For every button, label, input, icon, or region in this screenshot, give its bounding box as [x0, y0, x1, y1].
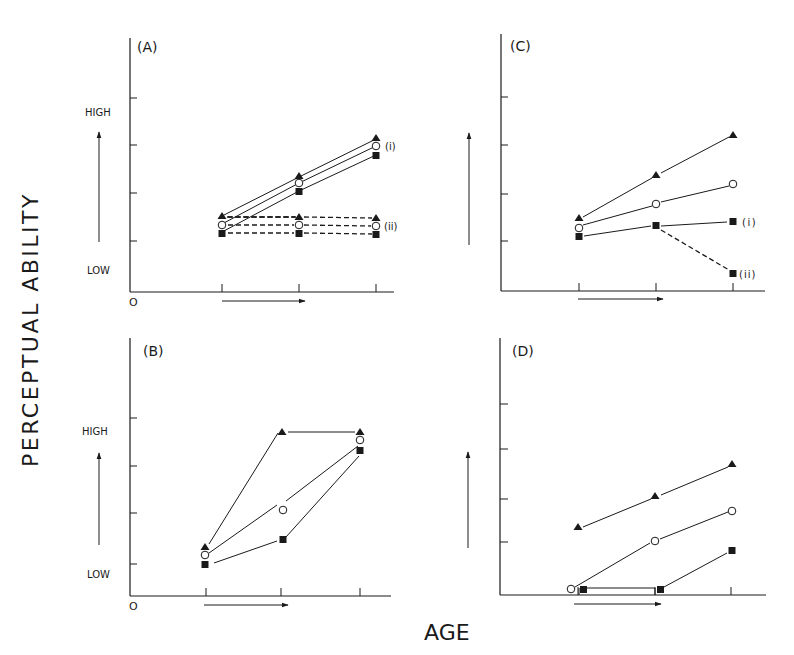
panel-c-annotation-i: (i)	[742, 217, 757, 228]
panel-a-annotation-ii: (ii)	[384, 221, 397, 232]
panel-d-markers	[567, 460, 736, 593]
circle-marker-icon	[729, 180, 737, 188]
panel-a-title: (A)	[137, 39, 158, 55]
circle-marker-icon	[295, 221, 303, 229]
triangle-marker-icon	[278, 428, 287, 435]
panel-b-origin-label: O	[129, 600, 138, 613]
triangle-marker-icon	[372, 134, 381, 141]
panel-a-y-ticks	[130, 98, 137, 241]
panel-c-title: (C)	[510, 38, 531, 54]
panel-a-x-ticks	[222, 284, 376, 292]
triangle-marker-icon	[729, 131, 738, 138]
triangle-marker-icon	[372, 214, 381, 221]
circle-marker-icon	[567, 585, 575, 593]
panel-a-low-label: LOW	[87, 265, 110, 276]
panel-b-y-ticks	[130, 418, 137, 564]
square-marker-icon	[202, 561, 209, 568]
panel-a: (A) O HIGH LOW	[85, 38, 397, 309]
triangle-marker-icon	[201, 543, 210, 550]
circle-marker-icon	[356, 436, 364, 444]
triangle-marker-icon	[574, 523, 583, 530]
y-axis-label: PERCEPTUAL ABILITY	[18, 192, 43, 467]
circle-marker-icon	[279, 506, 287, 514]
panel-c-y-ticks	[501, 97, 508, 241]
circle-marker-icon	[652, 200, 660, 208]
panel-d: (D)	[468, 338, 766, 604]
circle-marker-icon	[372, 142, 380, 150]
panel-d-y-ticks	[500, 404, 508, 542]
square-marker-icon	[730, 218, 737, 225]
panel-c: (C)	[469, 34, 765, 299]
panel-d-lines	[575, 467, 728, 595]
panel-c-dashed-line-ii	[661, 230, 729, 270]
panel-b-high-label: HIGH	[82, 426, 108, 437]
square-marker-icon	[730, 270, 737, 277]
square-marker-icon	[219, 230, 226, 237]
triangle-marker-icon	[575, 214, 584, 221]
square-marker-icon	[729, 547, 736, 554]
square-marker-icon	[580, 586, 587, 593]
panel-b-low-label: LOW	[87, 569, 110, 580]
square-marker-icon	[576, 233, 583, 240]
panel-b: (B) O HIGH LOW	[82, 338, 391, 613]
panel-b-title: (B)	[143, 343, 164, 359]
panel-c-lines	[583, 137, 729, 236]
panel-b-x-ticks	[206, 588, 360, 596]
triangle-marker-icon	[728, 460, 737, 467]
square-marker-icon	[653, 222, 660, 229]
circle-marker-icon	[295, 179, 303, 187]
panel-c-x-ticks	[579, 283, 733, 291]
x-axis-label: AGE	[424, 620, 470, 645]
panel-d-title: (D)	[512, 343, 534, 359]
panel-b-markers	[201, 428, 365, 568]
square-marker-icon	[357, 447, 364, 454]
square-marker-icon	[296, 188, 303, 195]
square-marker-icon	[296, 230, 303, 237]
figure: PERCEPTUAL ABILITY AGE (A) O HIGH LOW	[0, 0, 794, 655]
triangle-marker-icon	[651, 492, 660, 499]
circle-marker-icon	[651, 537, 659, 545]
panel-b-lines	[209, 432, 359, 563]
panel-c-markers	[575, 131, 738, 277]
circle-marker-icon	[201, 551, 209, 559]
circle-marker-icon	[728, 507, 736, 515]
panel-c-annotation-ii: (ii)	[739, 269, 756, 280]
triangle-marker-icon	[652, 171, 661, 178]
square-marker-icon	[373, 231, 380, 238]
circle-marker-icon	[575, 224, 583, 232]
circle-marker-icon	[372, 222, 380, 230]
panel-a-markers	[218, 134, 381, 238]
panel-a-high-label: HIGH	[85, 107, 111, 118]
panel-a-annotation-i: (i)	[385, 141, 396, 152]
square-marker-icon	[280, 536, 287, 543]
triangle-marker-icon	[218, 212, 227, 219]
triangle-marker-icon	[356, 428, 365, 435]
square-marker-icon	[657, 586, 664, 593]
panel-a-origin-label: O	[129, 296, 138, 309]
square-marker-icon	[373, 152, 380, 159]
circle-marker-icon	[218, 221, 226, 229]
